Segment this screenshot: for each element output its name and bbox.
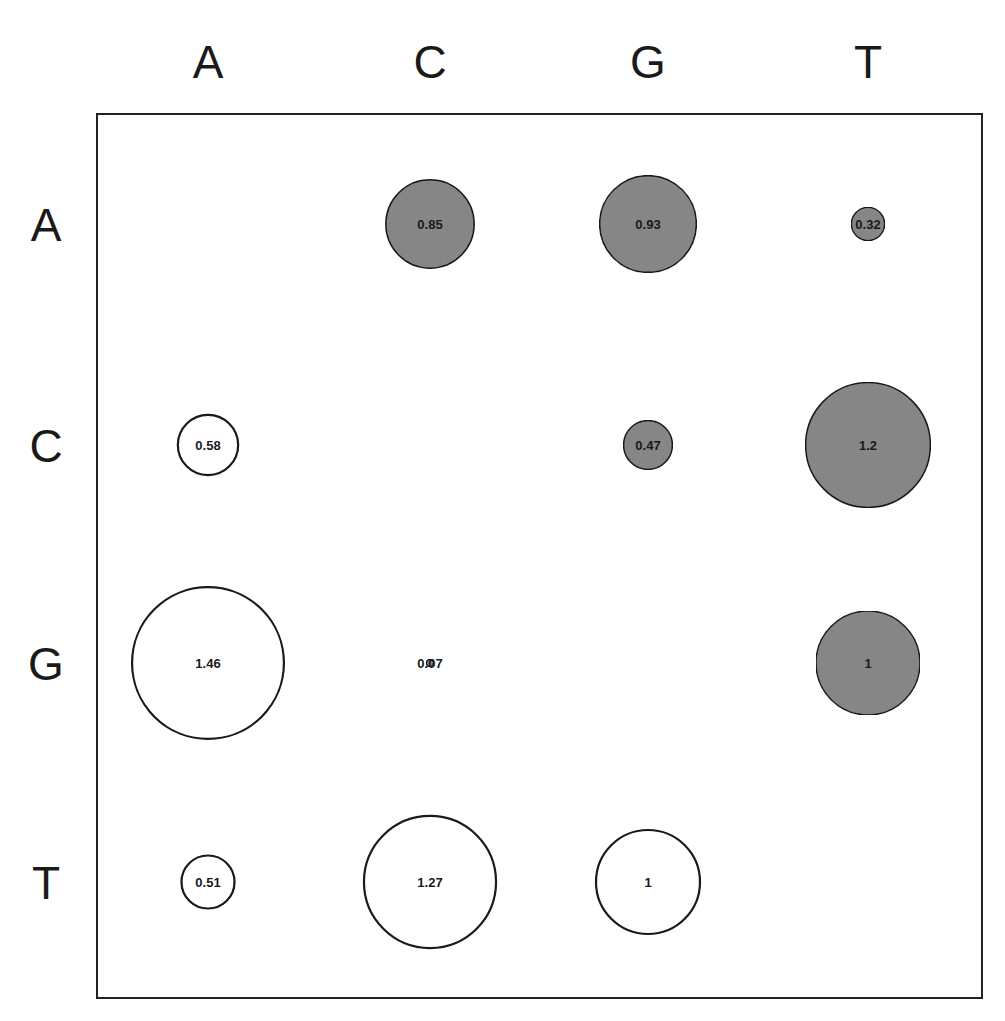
row-label-c: C: [29, 420, 62, 472]
column-label-g: G: [630, 36, 666, 88]
bubble-t-a: 0.51: [181, 855, 234, 908]
bubble-value-label: 0.32: [855, 217, 880, 232]
row-label-g: G: [28, 638, 64, 690]
bubble-g-t: 1: [816, 611, 920, 715]
bubble-a-g: 0.93: [600, 176, 697, 273]
bubble-value-label: 1: [644, 875, 651, 890]
row-label-t: T: [32, 857, 60, 909]
column-labels: ACGT: [193, 36, 882, 88]
bubble-g-c: 0.07: [417, 656, 442, 671]
bubble-value-label: 1.46: [195, 656, 220, 671]
bubble-value-label: 0.51: [195, 875, 220, 890]
bubble-a-t: 0.32: [851, 207, 884, 240]
bubble-value-label: 1.2: [859, 438, 877, 453]
bubble-value-label: 1: [864, 656, 871, 671]
bubble-value-label: 0.93: [635, 217, 660, 232]
bubbles: 0.850.930.320.580.471.21.460.0710.511.27…: [132, 176, 930, 948]
bubble-value-label: 0.47: [635, 438, 660, 453]
bubble-c-a: 0.58: [178, 415, 238, 475]
bubble-t-g: 1: [596, 830, 700, 934]
bubble-a-c: 0.85: [386, 180, 474, 268]
bubble-matrix-chart: ACGT ACGT 0.850.930.320.580.471.21.460.0…: [0, 0, 1005, 1021]
bubble-value-label: 0.07: [417, 656, 442, 671]
bubble-value-label: 0.58: [195, 438, 220, 453]
column-label-c: C: [413, 36, 446, 88]
row-label-a: A: [31, 199, 62, 251]
bubble-value-label: 0.85: [417, 217, 442, 232]
bubble-c-t: 1.2: [806, 383, 931, 508]
bubble-t-c: 1.27: [364, 816, 496, 948]
bubble-g-a: 1.46: [132, 587, 284, 739]
column-label-t: T: [854, 36, 882, 88]
bubble-value-label: 1.27: [417, 875, 442, 890]
row-labels: ACGT: [28, 199, 64, 909]
bubble-c-g: 0.47: [624, 421, 673, 470]
column-label-a: A: [193, 36, 224, 88]
